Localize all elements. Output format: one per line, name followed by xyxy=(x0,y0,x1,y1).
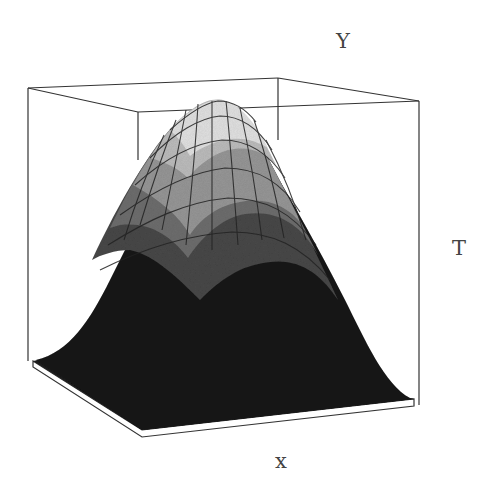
x-axis-label: x xyxy=(275,451,287,472)
y-axis-label: Y xyxy=(336,31,350,52)
surface xyxy=(36,100,414,430)
surface-plot xyxy=(0,0,492,492)
t-axis-label: T xyxy=(452,238,466,259)
